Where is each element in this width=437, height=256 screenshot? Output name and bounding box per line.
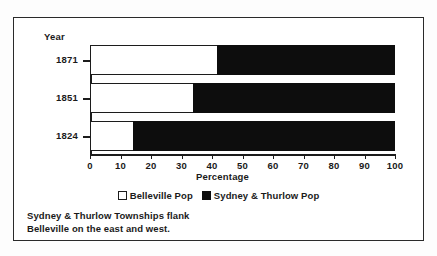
chart-page: Year 187118511824 0102030405060708090100… [0,0,437,256]
x-axis-tick [365,155,366,159]
bar-segment-belleville [90,45,217,75]
x-axis-tick [243,155,244,159]
x-axis-tick [304,155,305,159]
x-axis-tick-label: 80 [329,160,340,171]
x-axis-tick [334,155,335,159]
bar-segment-sydney-thurlow [193,83,395,113]
x-axis-tick [182,155,183,159]
caption-line-1: Sydney & Thurlow Townships flank [27,210,189,223]
chart-caption: Sydney & Thurlow Townships flank Bellevi… [27,210,189,235]
bar-segment-belleville [90,121,133,151]
bar-segment-belleville [90,83,193,113]
legend-item-belleville: Belleville Pop [118,190,193,201]
y-axis-tick [83,60,90,62]
bar-row [90,121,395,151]
x-axis-tick [90,155,91,159]
y-axis-tick-label: 1871 [0,54,78,65]
x-axis-title: Percentage [0,171,437,182]
bar-row [90,45,395,75]
x-axis-tick [395,155,396,159]
x-axis-tick-label: 50 [237,160,248,171]
bar-segment-sydney-thurlow [133,121,395,151]
y-axis-tick [83,98,90,100]
x-axis-tick [121,155,122,159]
legend-label-sydney-thurlow: Sydney & Thurlow Pop [214,190,319,201]
bar-segment-sydney-thurlow [217,45,395,75]
x-axis-tick [273,155,274,159]
x-axis-tick-label: 70 [298,160,309,171]
y-axis-title: Year [44,31,65,42]
legend-item-sydney-thurlow: Sydney & Thurlow Pop [202,190,319,201]
x-axis-tick-label: 90 [359,160,370,171]
x-axis-tick-label: 10 [115,160,126,171]
dark-square-swatch-icon [202,191,211,200]
light-square-swatch-icon [118,191,127,200]
caption-line-2: Belleville on the east and west. [27,223,189,236]
legend-label-belleville: Belleville Pop [130,190,193,201]
x-axis-tick-label: 40 [207,160,218,171]
x-axis-tick [212,155,213,159]
x-axis-tick-label: 100 [387,160,403,171]
y-axis-tick [83,136,90,138]
chart-legend: Belleville Pop Sydney & Thurlow Pop [0,190,437,201]
bar-row [90,83,395,113]
x-axis-tick-label: 30 [176,160,187,171]
x-axis-tick-label: 60 [268,160,279,171]
x-axis-title-text: Percentage [196,171,249,182]
x-axis-tick-label: 0 [87,160,92,171]
y-axis-tick-label: 1851 [0,92,78,103]
plot-area [90,45,395,153]
x-axis-tick-label: 20 [146,160,157,171]
x-axis-tick [151,155,152,159]
y-axis-tick-label: 1824 [0,130,78,141]
